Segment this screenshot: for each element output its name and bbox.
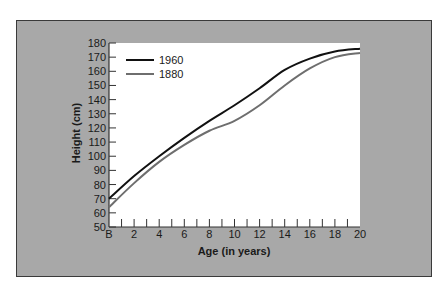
x-tick-label: 16 (304, 228, 316, 240)
line-chart: 5060708090100110120130140150160170180 B2… (0, 0, 448, 292)
x-tick-label: 20 (354, 228, 366, 240)
plot-background (109, 43, 360, 227)
x-tick-label: 2 (131, 228, 137, 240)
y-tick-label: 100 (88, 150, 106, 162)
x-tick-label: 4 (156, 228, 162, 240)
y-tick-label: 160 (88, 65, 106, 77)
plot-area (109, 43, 360, 227)
legend-label-1960: 1960 (159, 54, 183, 66)
y-tick-label: 70 (94, 193, 106, 205)
x-tick-label: 12 (253, 228, 265, 240)
y-tick-label: 130 (88, 108, 106, 120)
y-tick-label: 50 (94, 221, 106, 233)
x-axis-title: Age (in years) (198, 245, 271, 257)
y-tick-label: 170 (88, 51, 106, 63)
x-tick-label: 18 (329, 228, 341, 240)
x-tick-label: 8 (206, 228, 212, 240)
y-tick-label: 90 (94, 164, 106, 176)
y-tick-label: 150 (88, 79, 106, 91)
y-tick-label: 120 (88, 122, 106, 134)
x-tick-label: 6 (181, 228, 187, 240)
y-tick-label: 60 (94, 207, 106, 219)
y-tick-label: 180 (88, 37, 106, 49)
legend-label-1880: 1880 (159, 68, 183, 80)
x-tick-label: 14 (279, 228, 291, 240)
x-tick-label: 10 (228, 228, 240, 240)
y-axis-title: Height (cm) (70, 102, 82, 163)
x-tick-label: B (105, 228, 112, 240)
y-tick-label: 80 (94, 179, 106, 191)
y-tick-label: 110 (88, 136, 106, 148)
y-tick-label: 140 (88, 94, 106, 106)
